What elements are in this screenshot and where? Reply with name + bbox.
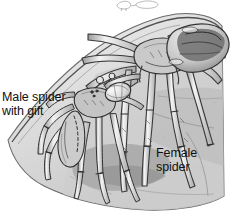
label-female-line2: spider (156, 160, 189, 174)
label-female-spider: Femalespider (156, 146, 197, 174)
label-male-line1: Male spider (2, 90, 66, 104)
label-male-line2: with gift (2, 104, 43, 118)
male-leg-md1 (96, 116, 103, 174)
label-female-line1: Female (156, 146, 197, 160)
spider-illustration-figure: Male spiderwith gift Femalespider (0, 0, 232, 217)
male-palp-bulb-right (109, 73, 115, 79)
label-male-spider: Male spiderwith gift (2, 90, 66, 118)
